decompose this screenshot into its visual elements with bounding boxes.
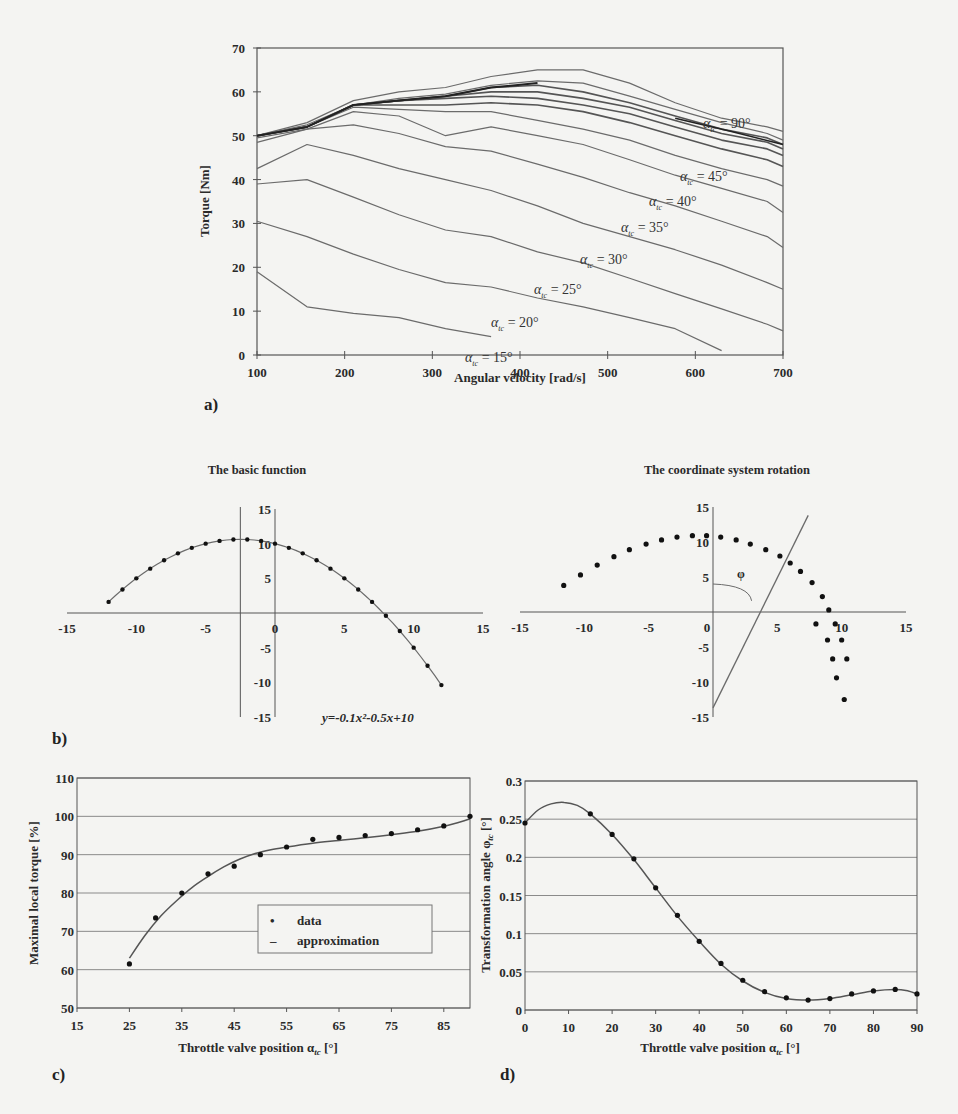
curve-label: αtc = 45°: [680, 169, 728, 187]
x-tick-label: 0: [272, 621, 279, 636]
data-point: [425, 663, 429, 667]
data-point: [627, 547, 632, 552]
data-point: [806, 997, 811, 1002]
data-point: [595, 563, 600, 568]
data-point: [849, 991, 854, 996]
data-point: [871, 988, 876, 993]
data-point: [830, 656, 835, 661]
y-tick-label: -5: [260, 641, 271, 656]
y-tick-label: -10: [692, 675, 709, 690]
y-tick-label: 60: [232, 85, 245, 100]
y-tick-label: -10: [254, 675, 271, 690]
x-tick-label: 85: [437, 1018, 451, 1033]
legend-dot-icon: •: [270, 913, 275, 928]
y-tick-label: 110: [55, 771, 74, 786]
data-point: [762, 989, 767, 994]
data-point: [763, 547, 768, 552]
y-tick-label: 15: [258, 502, 272, 517]
chart-title-coordinate-rotation: The coordinate system rotation: [644, 463, 810, 477]
y-tick-label: 70: [232, 41, 245, 56]
x-tick-label: 0: [704, 620, 711, 635]
data-point: [284, 844, 289, 849]
data-point: [914, 991, 919, 996]
x-tick-label: -15: [58, 621, 76, 636]
x-tick-label: 55: [280, 1018, 294, 1033]
data-point: [389, 831, 394, 836]
panel-label-a: a): [204, 395, 218, 414]
y-tick-label: 60: [61, 963, 74, 978]
data-point: [798, 569, 803, 574]
data-point: [217, 539, 221, 543]
data-point: [834, 675, 839, 680]
data-point: [740, 978, 745, 983]
y-tick-label: 15: [696, 500, 710, 515]
coordinate-rotation-chart: -15-10-5051015-15-10-551015: [511, 500, 913, 725]
x-tick-label: 500: [598, 365, 618, 380]
data-point: [310, 837, 315, 842]
curve-label: αtc = 90°: [703, 116, 751, 134]
approximation-curve: [525, 802, 917, 1000]
data-point: [653, 885, 658, 890]
data-point: [784, 995, 789, 1000]
data-line: [257, 180, 783, 331]
data-line: [257, 145, 783, 290]
y-tick-label: 10: [232, 304, 245, 319]
panel-label-c: c): [52, 1065, 65, 1084]
y-tick-label: 5: [265, 571, 272, 586]
data-point: [258, 852, 263, 857]
data-point: [561, 583, 566, 588]
y-tick-label: 5: [703, 570, 710, 585]
data-point: [631, 856, 636, 861]
data-line: [257, 272, 491, 337]
data-point: [301, 551, 305, 555]
data-point: [809, 580, 814, 585]
data-point: [588, 811, 593, 816]
data-point: [356, 587, 360, 591]
x-tick-label: -10: [128, 621, 145, 636]
legend-dash-icon: –: [269, 933, 277, 948]
data-point: [287, 546, 291, 550]
equation-label: y=-0.1x²-0.5x+10: [320, 710, 414, 725]
data-point: [162, 558, 166, 562]
x-tick-label: 35: [175, 1018, 189, 1033]
data-point: [273, 541, 277, 545]
x-tick-label: 200: [335, 365, 355, 380]
y-tick-label: 50: [232, 129, 245, 144]
data-point: [153, 915, 158, 920]
basic-function-chart: -15-10-5051015-15-10-551015: [58, 502, 490, 725]
y-axis-label-a: Torque [Nm]: [197, 165, 212, 237]
data-point: [611, 554, 616, 559]
x-tick-label: 5: [774, 620, 781, 635]
y-tick-label: 50: [61, 1001, 74, 1016]
plot-frame: [257, 48, 783, 355]
curve-label: αtc = 40°: [649, 194, 697, 212]
data-point: [578, 572, 583, 577]
x-tick-label: 75: [385, 1018, 399, 1033]
x-tick-label: 70: [823, 1020, 836, 1035]
data-point: [777, 553, 782, 558]
data-point: [314, 558, 318, 562]
x-tick-label: 80: [867, 1020, 880, 1035]
y-tick-label: -5: [698, 640, 709, 655]
x-tick-label: -5: [643, 620, 654, 635]
x-tick-label: 700: [773, 365, 793, 380]
y-tick-label: 0: [516, 1003, 523, 1018]
x-tick-label: 15: [900, 620, 914, 635]
data-point: [106, 600, 110, 604]
y-tick-label: 20: [232, 260, 245, 275]
data-point: [825, 637, 830, 642]
data-line: [257, 81, 783, 140]
data-point: [415, 827, 420, 832]
data-point: [674, 535, 679, 540]
data-point: [411, 645, 415, 649]
data-point: [179, 890, 184, 895]
data-point: [127, 961, 132, 966]
data-point: [675, 913, 680, 918]
y-tick-label: 0.3: [506, 774, 523, 789]
y-tick-label: 0.1: [506, 927, 522, 942]
torque-vs-velocity-chart: 010203040506070100200300400500600700αtc …: [232, 41, 793, 380]
y-tick-label: 70: [61, 924, 74, 939]
legend: • data – approximation: [258, 905, 432, 953]
data-point: [748, 542, 753, 547]
x-tick-label: 25: [123, 1018, 137, 1033]
